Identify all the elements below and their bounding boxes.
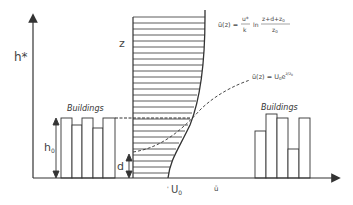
buildings-right-label: Buildings [261,103,298,112]
velocity-profile-hatching [133,10,205,178]
u0-label: U0 [171,184,182,196]
d-label: d [117,160,124,173]
h0-label: h0 [44,141,55,154]
svg-text:z0: z0 [272,26,278,34]
y-axis-label: h* [14,50,28,64]
u0-tick: ' [167,185,169,192]
right-buildings [255,114,310,178]
svg-text:u*: u* [242,15,249,22]
svg-text:ū(z) =: ū(z) = [218,21,238,29]
x-axis-label: ū [214,185,218,193]
svg-text:z+d+z0: z+d+z0 [262,15,285,23]
exponential-equation: ū(z) = U0ez/z0 [252,71,293,81]
svg-text:ln: ln [253,21,259,28]
z-label: z [119,37,125,50]
left-buildings [61,118,115,178]
svg-text:k: k [243,26,247,33]
svg-text:ū(z) = U0ez/z0: ū(z) = U0ez/z0 [252,71,293,81]
wind-profile-diagram: h* z Buildings Buildings h0 d ' U0 ū ū(z… [0,0,353,205]
log-law-equation: ū(z) = u* k ln z+d+z0 z0 [218,15,290,34]
buildings-left-label: Buildings [67,104,104,113]
d-dimension [126,154,132,178]
